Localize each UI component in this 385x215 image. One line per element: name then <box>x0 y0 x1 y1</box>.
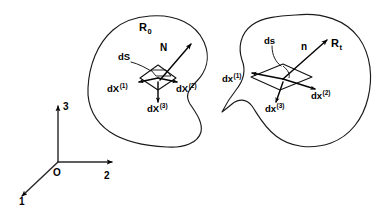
vector-dx3-base: dx <box>265 103 276 114</box>
region-current-base: R <box>331 37 339 49</box>
current-vector-dx3 <box>276 82 283 102</box>
vector-dx3-superscript: (3) <box>277 102 285 109</box>
reference-vector-dX1 <box>139 78 158 82</box>
vector-dX2-base: dX <box>176 83 188 94</box>
figure-canvas: R0 Rt dS N dX(1) dX(2) dX(3) ds n dx(1) … <box>0 0 385 215</box>
vector-dX2-superscript: (2) <box>189 82 197 89</box>
reference-ds-leader <box>131 62 151 71</box>
region-current-outline <box>222 14 371 146</box>
region-reference-base: R <box>139 21 147 33</box>
vector-label-dX3: dX(3) <box>147 104 167 114</box>
current-vector-dx1 <box>252 73 283 79</box>
normal-label-N: N <box>160 43 167 53</box>
axis-label-2: 2 <box>104 171 110 181</box>
vector-label-dX1: dX(1) <box>107 84 127 94</box>
vector-dX3-base: dX <box>147 103 159 114</box>
region-current-subscript: t <box>339 43 342 52</box>
axis-label-1: 1 <box>19 197 25 207</box>
normal-label-n: n <box>301 42 307 52</box>
vector-dx2-base: dx <box>311 90 322 101</box>
region-label-reference: R0 <box>139 22 152 33</box>
vector-dX1-base: dX <box>107 83 119 94</box>
vector-dX1-superscript: (1) <box>120 82 128 89</box>
vector-label-dX2: dX(2) <box>176 84 196 94</box>
vector-dx1-base: dx <box>222 73 233 84</box>
region-reference-subscript: 0 <box>147 27 151 36</box>
vector-label-dx2: dx(2) <box>311 91 330 101</box>
vector-dx1-superscript: (1) <box>234 72 242 79</box>
vector-dx2-superscript: (2) <box>323 89 331 96</box>
region-label-current: Rt <box>331 38 342 49</box>
current-vector-dx2 <box>283 79 315 89</box>
figure-vector-layer <box>0 0 385 215</box>
surface-label-ds: ds <box>264 36 275 46</box>
vector-dX3-superscript: (3) <box>160 102 168 109</box>
surface-label-dS: dS <box>118 52 130 62</box>
current-ds-leader <box>272 46 281 66</box>
vector-label-dx1: dx(1) <box>222 74 241 84</box>
origin-label: O <box>53 168 61 178</box>
axis-label-3: 3 <box>63 102 69 112</box>
vector-label-dx3: dx(3) <box>265 104 284 114</box>
